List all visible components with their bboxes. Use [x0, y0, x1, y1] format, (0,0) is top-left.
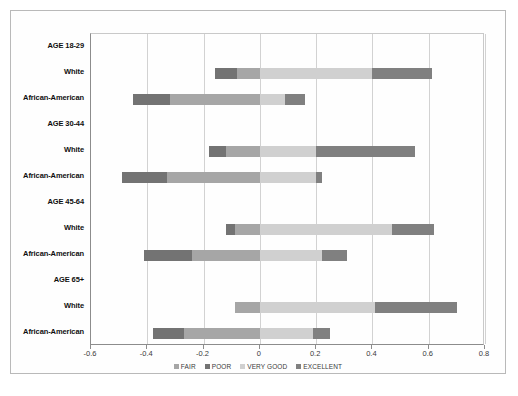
bar-segment-fair — [237, 68, 260, 79]
legend-swatch-icon — [240, 364, 245, 369]
y-axis-group-header: AGE 65+ — [11, 275, 84, 285]
x-axis-tick-label: -0.6 — [84, 349, 97, 358]
gridline — [485, 34, 486, 344]
bar-segment-poor — [209, 146, 226, 157]
y-axis-category-label: African-American — [11, 327, 84, 337]
stacked-bar — [91, 146, 485, 157]
stacked-bar — [91, 68, 485, 79]
bar-segment-poor — [226, 224, 234, 235]
bar-segment-fair — [167, 172, 260, 183]
x-axis-tick-label: 0.8 — [479, 349, 489, 358]
bar-segment-very-good — [260, 94, 285, 105]
bar-segment-poor — [122, 172, 167, 183]
bar-segment-poor — [144, 250, 192, 261]
y-axis-category-label: White — [11, 301, 84, 311]
chart-legend: FAIRPOORVERY GOODEXCELLENT — [11, 363, 505, 370]
bar-segment-excellent — [316, 172, 322, 183]
y-axis-group-header: AGE 30-44 — [11, 119, 84, 129]
bar-segment-excellent — [285, 94, 305, 105]
y-axis-category-label: White — [11, 67, 84, 77]
plot-area — [90, 33, 484, 345]
y-axis-category-label: African-American — [11, 93, 84, 103]
y-axis-category-label: African-American — [11, 171, 84, 181]
legend-item-excellent[interactable]: EXCELLENT — [296, 363, 342, 370]
bar-segment-poor — [215, 68, 238, 79]
bar-segment-excellent — [316, 146, 415, 157]
legend-item-very-good[interactable]: VERY GOOD — [240, 363, 287, 370]
legend-swatch-icon — [296, 364, 301, 369]
stacked-bar — [91, 94, 485, 105]
bar-segment-excellent — [322, 250, 347, 261]
bar-segment-very-good — [260, 172, 316, 183]
legend-label: POOR — [212, 363, 232, 370]
y-axis-group-header: AGE 45-64 — [11, 197, 84, 207]
stacked-bar — [91, 302, 485, 313]
bar-segment-very-good — [260, 224, 392, 235]
legend-item-poor[interactable]: POOR — [205, 363, 232, 370]
bar-segment-very-good — [260, 328, 313, 339]
gridline — [316, 34, 317, 344]
gridline — [147, 34, 148, 344]
y-axis-group-header: AGE 18-29 — [11, 41, 84, 51]
legend-label: FAIR — [181, 363, 196, 370]
bar-segment-excellent — [392, 224, 434, 235]
bar-segment-very-good — [260, 146, 316, 157]
x-axis-tick-label: 0 — [257, 349, 261, 358]
bar-segment-excellent — [372, 68, 431, 79]
gridline — [204, 34, 205, 344]
gridline — [372, 34, 373, 344]
chart-figure: AGE 18-29WhiteAfrican-AmericanAGE 30-44W… — [10, 10, 506, 374]
bar-segment-very-good — [260, 68, 373, 79]
y-axis-category-label: White — [11, 223, 84, 233]
bar-segment-very-good — [260, 302, 375, 313]
bar-segment-excellent — [313, 328, 330, 339]
legend-label: VERY GOOD — [247, 363, 287, 370]
legend-item-fair[interactable]: FAIR — [174, 363, 196, 370]
stacked-bar — [91, 328, 485, 339]
bar-segment-fair — [170, 94, 260, 105]
legend-swatch-icon — [174, 364, 179, 369]
bar-segment-fair — [235, 224, 260, 235]
x-axis-tick-label: -0.4 — [140, 349, 153, 358]
bar-segment-poor — [153, 328, 184, 339]
stacked-bar — [91, 224, 485, 235]
y-axis-category-label: White — [11, 145, 84, 155]
legend-label: EXCELLENT — [303, 363, 342, 370]
y-axis-category-label: African-American — [11, 249, 84, 259]
x-axis-tick-label: 0.6 — [422, 349, 432, 358]
bar-segment-very-good — [260, 250, 322, 261]
legend-swatch-icon — [205, 364, 210, 369]
stacked-bar — [91, 172, 485, 183]
bar-segment-poor — [133, 94, 170, 105]
x-axis-tick-label: -0.2 — [196, 349, 209, 358]
bar-segment-excellent — [375, 302, 457, 313]
gridline — [260, 34, 261, 344]
x-axis-tick-label: 0.4 — [366, 349, 376, 358]
stacked-bar — [91, 250, 485, 261]
bar-segment-fair — [192, 250, 260, 261]
bar-segment-fair — [235, 302, 260, 313]
gridline — [429, 34, 430, 344]
bar-segment-fair — [184, 328, 260, 339]
bar-segment-fair — [226, 146, 260, 157]
x-axis-tick-label: 0.2 — [310, 349, 320, 358]
